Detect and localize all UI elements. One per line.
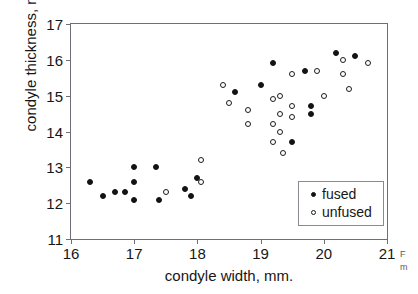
side-caption-line-2: m <box>400 261 418 274</box>
data-point-unfused <box>289 114 295 120</box>
data-point-unfused <box>245 107 251 113</box>
data-point-fused <box>258 82 264 88</box>
data-point-unfused <box>270 121 276 127</box>
y-tick-mark <box>66 203 71 204</box>
data-point-fused <box>308 103 314 109</box>
legend-item-fused[interactable]: fused <box>304 185 378 203</box>
data-point-unfused <box>277 129 283 135</box>
x-tick-mark <box>261 239 262 244</box>
data-point-fused <box>232 89 238 95</box>
x-tick-mark <box>134 239 135 244</box>
data-point-fused <box>100 193 106 199</box>
data-point-unfused <box>340 71 346 77</box>
data-point-fused <box>131 197 137 203</box>
data-point-unfused <box>365 60 371 66</box>
data-point-unfused <box>270 139 276 145</box>
scatter-plot-figure: condyle thickness, mm. 11121314151617161… <box>0 0 418 294</box>
x-tick-label: 18 <box>189 246 206 261</box>
data-point-fused <box>333 50 339 56</box>
data-point-unfused <box>198 179 204 185</box>
y-tick-mark <box>66 96 71 97</box>
x-axis-label: condyle width, mm. <box>70 268 388 283</box>
data-point-unfused <box>277 111 283 117</box>
data-point-unfused <box>289 71 295 77</box>
data-point-unfused <box>280 150 286 156</box>
x-tick-label: 16 <box>63 246 80 261</box>
x-tick-mark <box>197 239 198 244</box>
y-tick-mark <box>66 167 71 168</box>
y-tick-label: 14 <box>46 124 63 139</box>
side-caption: F m <box>400 248 418 274</box>
data-point-fused <box>122 189 128 195</box>
y-tick-mark <box>66 60 71 61</box>
x-tick-label: 17 <box>126 246 143 261</box>
side-caption-line-1: F <box>400 248 418 261</box>
data-point-fused <box>188 193 194 199</box>
data-point-unfused <box>314 68 320 74</box>
y-tick-label: 15 <box>46 88 63 103</box>
data-point-unfused <box>198 157 204 163</box>
data-point-unfused <box>277 93 283 99</box>
y-tick-label: 16 <box>46 52 63 67</box>
x-tick-mark <box>71 239 72 244</box>
y-tick-label: 12 <box>46 196 63 211</box>
data-point-unfused <box>220 82 226 88</box>
data-point-fused <box>131 179 137 185</box>
data-point-fused <box>87 179 93 185</box>
x-tick-label: 21 <box>379 246 396 261</box>
data-point-fused <box>153 164 159 170</box>
y-axis-label: condyle thickness, mm. <box>23 0 38 162</box>
y-tick-mark <box>66 132 71 133</box>
data-point-unfused <box>226 100 232 106</box>
legend-item-unfused[interactable]: unfused <box>304 203 378 221</box>
data-point-fused <box>270 60 276 66</box>
data-point-fused <box>112 189 118 195</box>
data-point-fused <box>131 164 137 170</box>
y-tick-mark <box>66 24 71 25</box>
y-tick-label: 13 <box>46 160 63 175</box>
x-tick-mark <box>387 239 388 244</box>
data-point-fused <box>308 111 314 117</box>
data-point-unfused <box>340 57 346 63</box>
data-point-fused <box>289 139 295 145</box>
data-point-fused <box>302 68 308 74</box>
x-tick-label: 20 <box>315 246 332 261</box>
data-point-unfused <box>270 96 276 102</box>
open-circle-icon <box>304 210 322 215</box>
filled-circle-icon <box>304 192 322 197</box>
y-tick-label: 11 <box>47 232 63 247</box>
y-tick-label: 17 <box>46 17 63 32</box>
legend: fused unfused <box>298 181 384 226</box>
legend-label-fused: fused <box>322 187 356 201</box>
data-point-unfused <box>163 189 169 195</box>
data-point-unfused <box>289 103 295 109</box>
legend-label-unfused: unfused <box>322 205 372 219</box>
data-point-fused <box>156 197 162 203</box>
data-point-fused <box>182 186 188 192</box>
data-point-unfused <box>321 93 327 99</box>
data-point-unfused <box>245 121 251 127</box>
x-tick-label: 19 <box>252 246 269 261</box>
x-tick-mark <box>324 239 325 244</box>
data-point-fused <box>352 53 358 59</box>
data-point-unfused <box>346 86 352 92</box>
